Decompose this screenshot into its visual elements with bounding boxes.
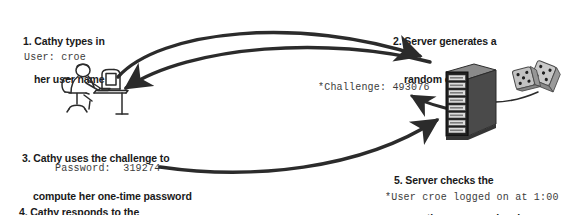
- arrow-server-to-user: [126, 47, 430, 88]
- diagram-canvas: 1. Cathy types in her user name 2. Serve…: [0, 0, 573, 215]
- person-at-computer-icon: [56, 62, 140, 118]
- server-tower-icon: [440, 62, 502, 140]
- dice-pair-icon: [506, 58, 568, 106]
- arrow-password-to-server: [160, 120, 437, 172]
